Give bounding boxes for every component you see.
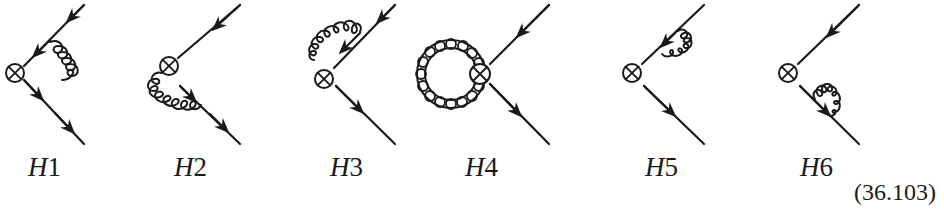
gluon-line — [50, 41, 78, 80]
diagram-h4 — [416, 5, 549, 144]
operator-vertex-icon — [470, 64, 490, 84]
diagram-h3 — [309, 5, 395, 144]
diagram-label-h2: H2 — [174, 154, 207, 181]
equation-number: (36.103) — [854, 180, 936, 204]
diagram-h2 — [148, 5, 240, 144]
diagram-h6 — [779, 5, 859, 144]
gluon-line — [148, 73, 201, 110]
feynman-diagrams-figure — [0, 0, 944, 215]
diagram-label-h1: H1 — [28, 154, 61, 181]
diagram-label-h6: H6 — [800, 154, 833, 181]
diagram-h5 — [623, 5, 704, 144]
diagram-h1 — [6, 5, 84, 144]
operator-vertex-icon — [6, 64, 24, 82]
diagram-label-h5: H5 — [645, 154, 678, 181]
diagram-label-h4: H4 — [465, 154, 498, 181]
operator-vertex-icon — [779, 64, 797, 82]
operator-vertex-icon — [315, 70, 333, 88]
diagram-label-h3: H3 — [330, 154, 363, 181]
operator-vertex-icon — [623, 64, 641, 82]
